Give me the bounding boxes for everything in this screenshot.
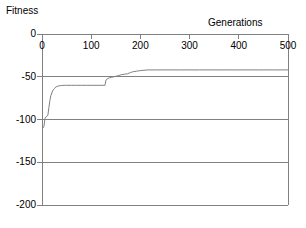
x-axis-ticks: [42, 34, 288, 39]
fitness-vs-generations-chart: Fitness Generations 0-50-100-150-200 010…: [0, 0, 306, 228]
x-tick-label: 100: [76, 41, 106, 51]
x-tick-label: 200: [125, 41, 155, 51]
x-tick-label: 0: [27, 41, 57, 51]
x-tick-label: 400: [224, 41, 254, 51]
gridlines: [42, 77, 288, 163]
x-tick-label: 500: [273, 41, 303, 51]
y-tick-label: -100: [4, 115, 36, 125]
x-tick-label: 300: [175, 41, 205, 51]
y-tick-label: 0: [4, 29, 36, 39]
y-tick-label: -150: [4, 157, 36, 167]
plot-canvas: [0, 0, 306, 228]
y-tick-label: -50: [4, 72, 36, 82]
y-axis-ticks: [37, 34, 42, 205]
y-tick-label: -200: [4, 200, 36, 210]
